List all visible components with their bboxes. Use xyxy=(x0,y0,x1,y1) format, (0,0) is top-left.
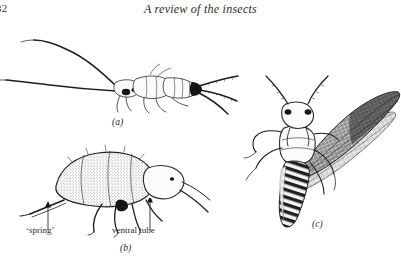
figure-a-illustration xyxy=(0,30,240,116)
annotation-ventral-tube-label: ventral tube xyxy=(112,225,155,235)
figure-c-illustration xyxy=(240,70,401,230)
annotation-spring-label: ‘spring’ xyxy=(26,225,55,235)
figure-b-label: (b) xyxy=(120,243,131,253)
figure-c-label: (c) xyxy=(312,219,323,229)
figure-a-label: (a) xyxy=(112,117,123,127)
running-head-title: A review of the insects xyxy=(0,2,401,17)
scanned-book-page: 32 A review of the insects xyxy=(0,0,401,261)
